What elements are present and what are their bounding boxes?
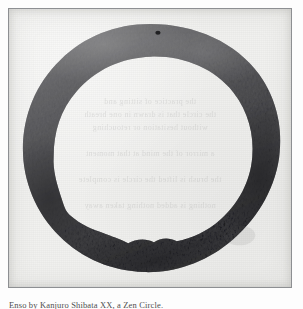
scanned-page: the practice of sitting and the circle t… [0,0,303,309]
plate-frame: the practice of sitting and the circle t… [8,8,292,288]
enso-stroke-feather [9,9,291,287]
plate-caption: Enso by Kanjuro Shibata XX, a Zen Circle… [9,300,299,309]
ink-dot [155,31,160,35]
enso-circle-artwork [9,9,291,287]
ink-bleed [223,225,255,245]
